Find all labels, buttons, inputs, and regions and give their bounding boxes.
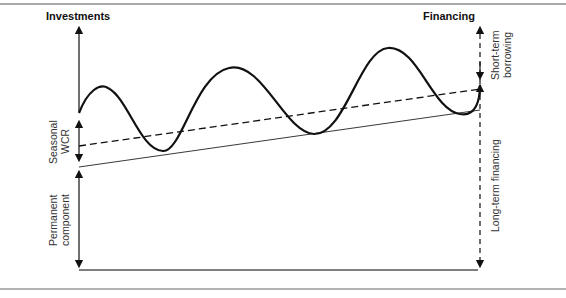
short-term-borrowing-label-line1: Short-term — [489, 30, 501, 80]
long-term-financing-label: Long-term financing — [489, 139, 501, 232]
seasonal-wcr-label-line1: Seasonal — [47, 120, 59, 164]
permanent-component-line — [79, 110, 480, 167]
seasonal-wcr-label-line2: WCR — [59, 129, 71, 154]
long-term-financing-line — [79, 89, 480, 146]
total-needs-curve — [79, 48, 480, 151]
short-term-borrowing-label-line2: borrowing — [501, 32, 513, 78]
financing-header: Financing — [423, 10, 475, 22]
permanent-component-label-line2: component — [59, 194, 71, 246]
permanent-component-label-line1: Permanent — [47, 195, 59, 246]
financing-diagram: Investments Financing Seasonal WCR Perma… — [0, 0, 566, 298]
investments-header: Investments — [46, 10, 110, 22]
